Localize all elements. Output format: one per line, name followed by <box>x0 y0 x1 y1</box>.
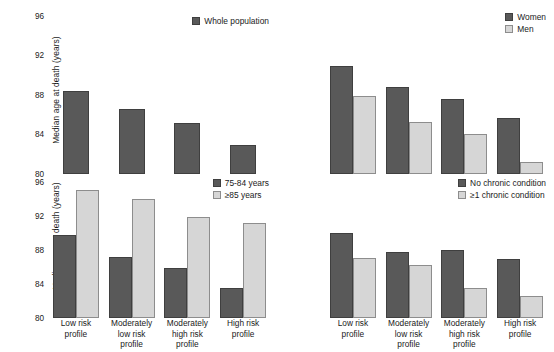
legend-item: Men <box>505 24 546 34</box>
legend-swatch-icon <box>458 179 466 187</box>
legend-swatch-icon <box>458 191 466 199</box>
bar <box>164 268 187 318</box>
bar-groups-tl <box>48 6 271 174</box>
legend-label: Men <box>517 24 533 34</box>
figure-median-age-at-death: Median age at death (years) 96 92 88 84 … <box>0 0 554 352</box>
legend-swatch-icon <box>505 25 513 33</box>
x-axis-labels-br: Low riskprofileModeratelylow riskprofile… <box>325 318 548 352</box>
y-tick: 80 <box>35 314 44 323</box>
bar-group <box>48 174 104 318</box>
legend-item: ≥85 years <box>213 190 269 200</box>
x-axis-label: High riskprofile <box>492 318 548 352</box>
y-tick: 84 <box>35 130 44 139</box>
panel-sex: Women Men <box>277 6 554 174</box>
y-tick: 84 <box>35 280 44 289</box>
bar <box>520 162 543 174</box>
y-axis-ticks-tl: 96 92 88 84 80 <box>20 6 46 174</box>
legend-br: No chronic condition ≥1 chronic conditio… <box>458 178 546 200</box>
y-axis-ticks-bl: 96 92 88 84 80 <box>20 174 46 318</box>
x-axis-label: Moderatelylow riskprofile <box>104 318 160 352</box>
legend-item: Whole population <box>192 16 269 26</box>
legend-item: Women <box>505 12 546 22</box>
bar <box>464 288 487 318</box>
bar <box>441 250 464 318</box>
bar <box>464 134 487 174</box>
bar <box>441 99 464 174</box>
bar <box>386 252 409 318</box>
legend-label: ≥1 chronic condition <box>470 190 544 200</box>
bar <box>174 123 200 174</box>
bar <box>497 118 520 174</box>
bar-group <box>325 174 381 318</box>
bar <box>353 96 376 174</box>
legend-bl: 75-84 years ≥85 years <box>213 178 269 200</box>
bar <box>243 223 266 318</box>
x-axis-labels-bl: Low riskprofileModeratelylow riskprofile… <box>48 318 271 352</box>
bar <box>119 109 145 174</box>
legend-swatch-icon <box>213 191 221 199</box>
x-axis-label: Moderatelyhigh riskprofile <box>437 318 493 352</box>
bar-group <box>104 6 160 174</box>
bar-group <box>437 6 493 174</box>
bar <box>63 91 89 174</box>
plot-area-bl: 75-84 years ≥85 years <box>48 174 271 318</box>
bar <box>520 296 543 318</box>
legend-tr: Women Men <box>505 12 546 34</box>
bar <box>230 145 256 174</box>
legend-swatch-icon <box>192 17 200 25</box>
bar <box>109 257 132 318</box>
y-tick: 96 <box>35 11 44 20</box>
legend-swatch-icon <box>505 13 513 21</box>
x-axis-label: Moderatelylow riskprofile <box>381 318 437 352</box>
y-tick: 92 <box>35 212 44 221</box>
legend-item: 75-84 years <box>213 178 269 188</box>
bar <box>53 235 76 318</box>
plot-area-tr: Women Men <box>325 6 548 174</box>
y-tick: 88 <box>35 246 44 255</box>
x-axis-label: Low riskprofile <box>48 318 104 352</box>
bar-group <box>104 174 160 318</box>
panel-whole-population: Median age at death (years) 96 92 88 84 … <box>0 6 277 174</box>
legend-label: Whole population <box>204 16 269 26</box>
legend-label: Women <box>517 12 546 22</box>
bar-group <box>325 6 381 174</box>
legend-label: 75-84 years <box>225 178 269 188</box>
x-axis-label: High riskprofile <box>215 318 271 352</box>
bar-group <box>215 6 271 174</box>
bar <box>409 122 432 174</box>
y-tick: 92 <box>35 51 44 60</box>
plot-area-br: No chronic condition ≥1 chronic conditio… <box>325 174 548 318</box>
bar-group <box>160 174 216 318</box>
legend-item: No chronic condition <box>458 178 546 188</box>
x-axis-label: Moderatelyhigh riskprofile <box>160 318 216 352</box>
legend-tl: Whole population <box>192 16 269 26</box>
bar <box>497 259 520 318</box>
x-axis-label: Low riskprofile <box>325 318 381 352</box>
bar <box>132 199 155 318</box>
legend-label: ≥85 years <box>225 190 262 200</box>
bar-group <box>381 174 437 318</box>
plot-area-tl: Whole population <box>48 6 271 174</box>
bar-group <box>160 6 216 174</box>
bar <box>409 265 432 318</box>
bar-group <box>381 6 437 174</box>
bar <box>187 217 210 318</box>
bar <box>76 190 99 318</box>
y-tick: 96 <box>35 178 44 187</box>
legend-label: No chronic condition <box>470 178 546 188</box>
y-tick: 88 <box>35 90 44 99</box>
bar <box>330 66 353 174</box>
panel-chronic-condition: No chronic condition ≥1 chronic conditio… <box>277 174 554 352</box>
bar <box>353 258 376 318</box>
legend-item: ≥1 chronic condition <box>458 190 546 200</box>
bar <box>330 233 353 318</box>
bar-group <box>48 6 104 174</box>
bar <box>220 288 243 318</box>
legend-swatch-icon <box>213 179 221 187</box>
bar <box>386 87 409 174</box>
panel-age-group: Median age at death (years) 96 92 88 84 … <box>0 174 277 352</box>
